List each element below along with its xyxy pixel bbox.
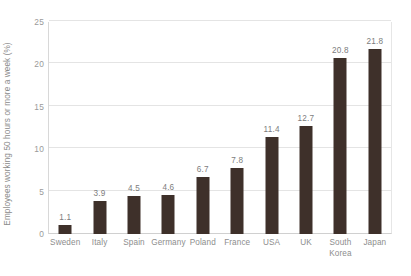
bar-slot: 6.7	[186, 22, 220, 234]
bar-chart: Employees working 50 hours or more a wee…	[0, 0, 411, 276]
bar-slot: 12.7	[289, 22, 323, 234]
y-tick-label: 15	[4, 103, 44, 111]
bar-slot: 7.8	[220, 22, 254, 234]
bar[interactable]	[231, 168, 244, 234]
bar-slot: 11.4	[254, 22, 288, 234]
bar[interactable]	[368, 49, 381, 234]
bar-value-label: 3.9	[94, 189, 106, 198]
y-tick-label: 0	[4, 230, 44, 238]
bar-value-label: 11.4	[264, 125, 280, 134]
y-axis-tick-labels: 0510152025	[0, 22, 44, 234]
y-tick-label: 20	[4, 60, 44, 68]
bar-value-label: 4.6	[162, 183, 174, 192]
bar-slot: 20.8	[323, 22, 357, 234]
y-tick-label: 5	[4, 188, 44, 196]
bar-value-label: 7.8	[231, 156, 243, 165]
bar-slot: 21.8	[358, 22, 392, 234]
bar[interactable]	[59, 225, 72, 234]
bar-slot: 4.5	[117, 22, 151, 234]
y-tick-label: 10	[4, 145, 44, 153]
bar-value-label: 20.8	[332, 46, 349, 55]
bar[interactable]	[265, 137, 278, 234]
bar[interactable]	[334, 58, 347, 234]
bar-slot: 4.6	[151, 22, 185, 234]
x-axis-tick-labels: SwedenItalySpainGermanyPolandFranceUSAUK…	[48, 238, 392, 272]
bar-value-label: 6.7	[197, 165, 209, 174]
bar[interactable]	[196, 177, 209, 234]
x-tick-label: Japan	[353, 238, 397, 249]
bar-value-label: 1.1	[59, 213, 71, 222]
bar[interactable]	[299, 126, 312, 234]
y-tick-label: 25	[4, 18, 44, 26]
gridline	[49, 20, 391, 21]
bars-layer: 1.13.94.54.66.77.811.412.720.821.8	[48, 22, 392, 234]
bar[interactable]	[162, 195, 175, 234]
bar[interactable]	[93, 201, 106, 234]
bar[interactable]	[127, 196, 140, 234]
bar-value-label: 12.7	[298, 114, 315, 123]
bar-value-label: 21.8	[366, 37, 383, 46]
bar-value-label: 4.5	[128, 184, 140, 193]
bar-slot: 1.1	[48, 22, 82, 234]
bar-slot: 3.9	[82, 22, 116, 234]
